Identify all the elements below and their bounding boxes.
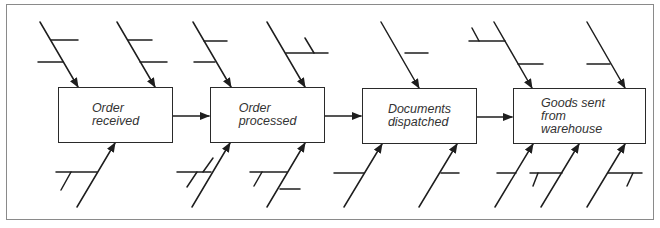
cause-arrow	[40, 22, 78, 87]
step-label: Documents dispatched	[388, 103, 451, 129]
step-label: Order received	[92, 102, 139, 128]
cause-arrow	[117, 22, 155, 87]
cause-arrow	[381, 22, 419, 88]
cause-arrow	[587, 144, 625, 207]
cause-arrow	[77, 143, 115, 207]
step-goods-sent: Goods sent from warehouse	[513, 88, 646, 144]
step-documents-dispatched: Documents dispatched	[362, 88, 477, 144]
cause-arrow	[344, 144, 382, 207]
cause-arrow	[267, 143, 305, 207]
step-label: Goods sent from warehouse	[541, 97, 605, 136]
step-order-received: Order received	[58, 87, 173, 143]
fishbone-process-diagram: Order received Order processed Documents…	[0, 0, 660, 228]
cause-arrow	[267, 22, 305, 87]
cause-arrow	[541, 144, 579, 207]
cause-arrow	[419, 144, 457, 207]
cause-arrow	[495, 144, 533, 207]
cause-arrow	[494, 22, 532, 88]
cause-arrow	[192, 143, 230, 207]
cause-arrow	[193, 22, 231, 87]
step-label: Order processed	[239, 102, 297, 128]
cause-arrow	[587, 22, 625, 88]
step-order-processed: Order processed	[210, 87, 325, 143]
